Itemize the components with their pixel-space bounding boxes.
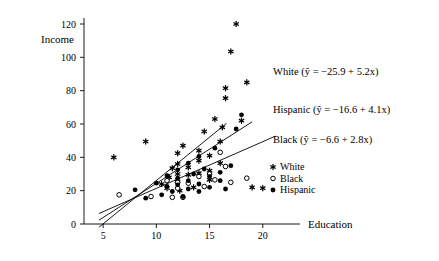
y-tick-label: 0 xyxy=(71,219,76,230)
legend-label: White xyxy=(280,161,305,172)
x-tick-label: 10 xyxy=(151,230,161,241)
fit-label-black: Black (ŷ = −6.6 + 2.8x) xyxy=(273,134,373,146)
y-tick-label: 40 xyxy=(66,152,76,163)
fit-label-white: White (ŷ = −25.9 + 5.2x) xyxy=(273,66,379,78)
x-tick-label: 15 xyxy=(205,230,215,241)
y-tick-label: 60 xyxy=(66,119,76,130)
legend-item-white: White xyxy=(271,161,305,172)
y-tick-label: 120 xyxy=(61,19,76,30)
fit-label-hispanic: Hispanic (ŷ = −16.6 + 4.1x) xyxy=(273,104,391,116)
y-tick-label: 80 xyxy=(66,85,76,96)
scatter-plot: 5101520020406080100120IncomeEducationWhi… xyxy=(0,0,439,261)
series-points-white xyxy=(112,21,265,193)
x-tick-label: 20 xyxy=(258,230,268,241)
regression-line-hispanic xyxy=(99,122,252,220)
y-axis-title: Income xyxy=(41,33,74,45)
x-axis-title: Education xyxy=(308,218,353,230)
series-points-black xyxy=(117,150,249,200)
y-tick-label: 20 xyxy=(66,185,76,196)
legend-label: Hispanic xyxy=(280,184,316,195)
regression-line-black xyxy=(99,136,276,213)
chart-page: 5101520020406080100120IncomeEducationWhi… xyxy=(0,0,439,261)
y-tick-label: 100 xyxy=(61,52,76,63)
legend-item-hispanic: Hispanic xyxy=(271,184,317,195)
x-tick-label: 5 xyxy=(101,230,106,241)
legend-label: Black xyxy=(280,173,303,184)
legend-item-black: Black xyxy=(271,173,304,184)
